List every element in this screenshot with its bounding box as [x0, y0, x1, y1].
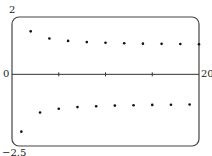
data-point	[29, 30, 32, 33]
data-point	[151, 104, 154, 107]
data-point	[67, 40, 70, 43]
data-point	[39, 111, 42, 114]
y-max-label: 2	[9, 5, 15, 15]
data-point	[198, 43, 201, 46]
y-min-label: −2.5	[2, 148, 26, 156]
data-point	[95, 105, 98, 108]
data-point	[132, 104, 135, 107]
data-point	[170, 103, 173, 106]
data-point	[104, 42, 107, 45]
data-point	[86, 41, 89, 44]
data-point	[123, 42, 126, 45]
y-origin-label: 0	[3, 69, 9, 79]
data-point	[48, 37, 51, 40]
data-point	[142, 42, 145, 45]
scatter-plot	[0, 0, 212, 156]
data-point	[76, 106, 79, 109]
data-point	[188, 103, 191, 106]
data-point	[114, 104, 117, 107]
x-max-label: 20	[201, 69, 212, 79]
data-point	[57, 107, 60, 110]
data-point	[160, 43, 163, 46]
data-point	[20, 130, 23, 133]
plot-frame	[12, 17, 199, 146]
data-point	[179, 43, 182, 46]
